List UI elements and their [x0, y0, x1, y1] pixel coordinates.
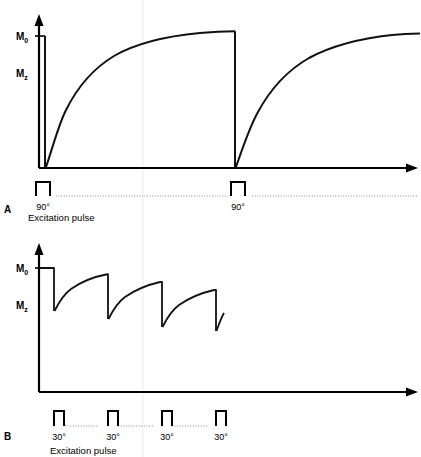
m0-label-sub: 0 — [24, 37, 28, 44]
panel-a-y-axis — [35, 14, 44, 168]
panel-b-recovery-3 — [163, 290, 215, 327]
panel-a-pulse-1-angle: 90° — [36, 202, 50, 212]
mz-label-sub: z — [24, 306, 28, 313]
panel-a: M0 Mz 90° 90° Excitation pul — [4, 14, 420, 223]
panel-b-pulse-1: 30° — [52, 411, 66, 442]
panel-a-pulse-2: 90° — [231, 182, 245, 212]
panel-b-cycle-1-drop — [40, 268, 54, 311]
svg-text:Mz: Mz — [16, 68, 28, 81]
panel-a-recovery-curve-1 — [46, 31, 235, 167]
panel-b-pulse-3-angle: 30° — [160, 432, 174, 442]
m0-label-sub: 0 — [24, 269, 28, 276]
panel-a-caption: Excitation pulse — [28, 212, 95, 223]
panel-a-x-axis — [39, 164, 418, 173]
panel-a-mz-axis-label: Mz — [16, 68, 28, 81]
panel-a-m0-axis-label: M0 — [16, 31, 28, 44]
panel-b-cycle-2-drop — [106, 274, 108, 319]
panel-b-sawtooth-train — [40, 268, 224, 331]
figure-root: M0 Mz 90° 90° Excitation pul — [0, 0, 421, 457]
panel-b-mz-axis-label: Mz — [16, 300, 28, 313]
svg-text:Mz: Mz — [16, 300, 28, 313]
svg-text:M0: M0 — [16, 263, 28, 276]
svg-text:M0: M0 — [16, 31, 28, 44]
mz-label-base: M — [16, 300, 24, 311]
panel-b-pulse-1-angle: 30° — [52, 432, 66, 442]
panel-a-letter: A — [4, 204, 11, 215]
panel-b-recovery-2 — [109, 282, 161, 319]
panel-b-y-axis — [35, 243, 44, 392]
mz-label-sub: z — [24, 74, 28, 81]
magnetization-recovery-figure: M0 Mz 90° 90° Excitation pul — [0, 0, 421, 457]
panel-b-recovery-1 — [55, 275, 107, 312]
panel-b: M0 Mz 30° 30° — [4, 243, 418, 456]
panel-b-m0-axis-label: M0 — [16, 263, 28, 276]
m0-label-base: M — [16, 263, 24, 274]
panel-b-letter: B — [4, 431, 11, 442]
panel-a-recovery-curve-2 — [236, 33, 420, 167]
panel-a-pulse-1: 90° — [36, 182, 50, 212]
panel-b-pulse-4-angle: 30° — [214, 432, 228, 442]
panel-b-pulse-2-angle: 30° — [106, 432, 120, 442]
panel-b-caption: Excitation pulse — [50, 445, 117, 456]
panel-b-pulse-4: 30° — [214, 411, 228, 442]
panel-b-cycle-3-drop — [160, 282, 162, 327]
panel-b-cycle-4-drop — [214, 290, 216, 331]
panel-a-pulse-2-angle: 90° — [231, 202, 245, 212]
panel-b-recovery-4-tail — [217, 313, 225, 331]
panel-b-x-axis — [39, 388, 418, 397]
mz-label-base: M — [16, 68, 24, 79]
m0-label-base: M — [16, 31, 24, 42]
